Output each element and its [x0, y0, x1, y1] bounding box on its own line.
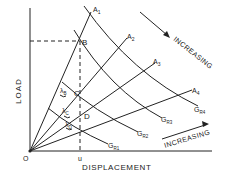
angle-c-label: λC: [62, 107, 70, 116]
ray-a1: [30, 12, 91, 151]
arrowhead-bottom: [202, 121, 209, 127]
origin-point: [28, 149, 31, 152]
y-axis-label: LOAD: [14, 78, 23, 104]
origin-label: O: [23, 155, 29, 162]
curve-gr2-label: GR2: [137, 130, 149, 139]
increasing-bottom-label: INCREASING: [163, 128, 211, 149]
ray-a3: [30, 63, 155, 151]
curve-gr4: [84, 6, 198, 106]
angle-b-label: λB: [60, 87, 67, 96]
x-axis-label: DISPLACEMENT: [82, 163, 151, 172]
increasing-top-label: INCREASING: [172, 35, 214, 70]
point-b-label: B: [82, 38, 87, 47]
curve-gr1: [48, 108, 108, 144]
load-displacement-diagram: LOAD DISPLACEMENT O u B C D A1 A2 A3 A4 …: [0, 0, 245, 181]
curve-gr1-label: GR1: [108, 142, 120, 151]
increasing-arrow-top: [140, 12, 167, 35]
ray-a2-label: A2: [127, 33, 135, 42]
u-marker-label: u: [78, 155, 82, 162]
angle-arc-c: [64, 116, 70, 118]
curve-gr3-label: GR3: [161, 116, 173, 125]
point-d-label: D: [84, 112, 90, 121]
curve-gr4-label: GR4: [194, 106, 206, 115]
point-c-label: C: [74, 89, 80, 98]
ray-a3-label: A3: [153, 58, 161, 67]
ray-a4-label: A4: [192, 87, 200, 96]
ray-a1-label: A1: [93, 6, 101, 15]
